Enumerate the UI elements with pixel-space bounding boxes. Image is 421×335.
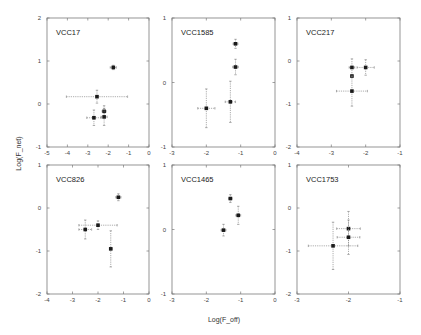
plot-frame	[47, 18, 149, 147]
marker	[347, 235, 351, 239]
y-tick-label: 0	[163, 80, 167, 86]
panel-title: VCC1465	[181, 175, 214, 184]
y-tick-label: 0	[38, 101, 42, 107]
x-tick-label: -5	[44, 150, 50, 156]
x-tick-label: -2	[204, 297, 210, 303]
marker	[109, 247, 113, 251]
marker	[96, 223, 100, 227]
panel-title: VCC1585	[181, 28, 214, 37]
x-tick-label: -1	[238, 150, 244, 156]
y-tick-label: -1	[36, 144, 42, 150]
plot-frame	[297, 18, 400, 147]
x-tick-label: -4	[294, 150, 300, 156]
panel-title: VCC1753	[306, 175, 339, 184]
marker	[102, 115, 106, 119]
y-tick-label: -2	[36, 291, 42, 297]
panel-vcc17: -5-4-3-2-10-1012VCC17	[36, 15, 152, 156]
y-tick-label: 0	[288, 205, 292, 211]
marker	[236, 214, 240, 218]
x-tick-label: -3	[70, 297, 76, 303]
y-tick-label: -1	[286, 101, 292, 107]
marker	[112, 66, 116, 70]
x-tick-label: -2	[204, 150, 210, 156]
y-tick-label: -1	[161, 291, 167, 297]
marker	[92, 116, 96, 120]
x-tick-label: -4	[44, 297, 50, 303]
marker	[234, 65, 238, 69]
y-tick-label: -1	[36, 248, 42, 254]
y-tick-label: -1	[286, 248, 292, 254]
panel-title: VCC826	[56, 175, 84, 184]
panel-title: VCC17	[56, 28, 80, 37]
x-tick-label: -2	[106, 150, 112, 156]
x-tick-label: 0	[147, 150, 151, 156]
marker	[205, 107, 209, 111]
y-tick-label: 1	[38, 162, 42, 168]
x-axis-label: Log(F_off)	[188, 316, 260, 323]
x-tick-label: 0	[147, 297, 151, 303]
x-tick-label: -1	[397, 297, 403, 303]
data-point	[236, 206, 241, 224]
panel-title: VCC217	[306, 28, 334, 37]
marker	[350, 66, 354, 70]
y-tick-label: 1	[163, 162, 167, 168]
y-axis-label: Log(F_net)	[15, 124, 22, 184]
data-point	[337, 220, 360, 254]
marker	[95, 95, 99, 99]
panel-vcc1753: -3-2-1-2-101VCC1753	[286, 162, 404, 303]
x-tick-label: -1	[121, 297, 127, 303]
marker	[331, 244, 335, 248]
y-tick-label: 1	[288, 162, 292, 168]
y-tick-label: -2	[286, 144, 292, 150]
y-tick-label: 1	[288, 15, 292, 21]
data-point	[198, 89, 215, 128]
x-tick-label: -1	[126, 150, 132, 156]
x-tick-label: -3	[294, 297, 300, 303]
x-tick-label: -3	[329, 150, 335, 156]
y-tick-label: -2	[286, 291, 292, 297]
x-tick-label: -2	[95, 297, 101, 303]
marker	[350, 89, 354, 93]
y-tick-label: -1	[161, 144, 167, 150]
x-tick-label: -2	[363, 150, 369, 156]
y-tick-label: 1	[38, 58, 42, 64]
figure: -5-4-3-2-10-1012VCC17-3-2-10-101VCC1585-…	[0, 0, 421, 335]
x-tick-label: -4	[65, 150, 71, 156]
data-point	[233, 39, 238, 48]
data-point	[229, 195, 233, 203]
data-point	[233, 59, 238, 74]
marker	[229, 197, 233, 201]
y-tick-label: 2	[38, 15, 42, 21]
marker	[234, 42, 238, 46]
data-point	[349, 59, 354, 76]
marker	[83, 228, 87, 232]
data-point	[116, 194, 121, 201]
panel-vcc1465: -3-2-10-101VCC1465	[161, 162, 278, 303]
marker	[364, 66, 368, 70]
x-tick-label: 0	[273, 297, 277, 303]
x-tick-label: -2	[346, 297, 352, 303]
data-point	[357, 60, 374, 75]
data-point	[336, 76, 367, 106]
x-tick-label: -3	[169, 150, 175, 156]
y-tick-label: 0	[38, 205, 42, 211]
y-tick-label: 1	[163, 15, 167, 21]
data-point	[79, 220, 92, 239]
marker	[229, 100, 233, 104]
x-tick-label: -1	[238, 297, 244, 303]
y-tick-label: 0	[288, 58, 292, 64]
data-point	[66, 90, 127, 103]
marker	[117, 195, 121, 199]
data-point	[87, 110, 101, 125]
panel-vcc826: -4-3-2-10-2-101VCC826	[36, 162, 152, 303]
data-point	[110, 65, 116, 69]
panel-vcc217: -4-3-2-1-2-101VCC217	[286, 15, 404, 156]
x-tick-label: -3	[169, 297, 175, 303]
marker	[222, 228, 226, 232]
panel-vcc1585: -3-2-10-101VCC1585	[161, 15, 278, 156]
x-tick-label: -1	[397, 150, 403, 156]
data-point	[109, 231, 113, 267]
x-tick-label: 0	[273, 150, 277, 156]
x-tick-label: -3	[85, 150, 91, 156]
data-point	[308, 222, 357, 269]
